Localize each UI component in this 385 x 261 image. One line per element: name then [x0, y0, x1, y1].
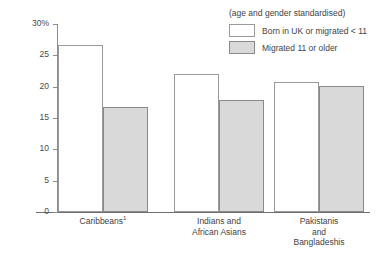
y-axis-tick-label: 15 — [40, 113, 49, 122]
legend-item-label: Migrated 11 or older — [262, 43, 337, 53]
legend-swatch-shaded-icon — [229, 41, 255, 54]
category-label-line: Bangladeshis — [259, 237, 379, 248]
bar — [219, 100, 264, 212]
bar — [103, 107, 148, 212]
legend-item-born-in-uk: Born in UK or migrated < 11 — [229, 24, 381, 37]
bar-chart: 051015202530% Caribbeans1Indians andAfri… — [0, 0, 385, 261]
x-axis-category-label: Caribbeans1 — [43, 216, 163, 227]
y-axis-tick-label: 10 — [40, 144, 49, 153]
category-label-line: Pakistanis — [259, 216, 379, 227]
bar — [274, 82, 319, 212]
category-label-line: and — [259, 227, 379, 238]
legend: (age and gender standardised) Born in UK… — [229, 8, 381, 58]
category-label-line: Caribbeans1 — [43, 216, 163, 227]
legend-item-label: Born in UK or migrated < 11 — [262, 26, 367, 36]
bar — [174, 74, 219, 212]
y-axis-tick-label: 30% — [32, 19, 49, 28]
y-axis-tick-label: 5 — [44, 176, 49, 185]
x-axis-line — [36, 212, 370, 213]
bar — [319, 86, 364, 212]
y-axis-tick-label: 20 — [40, 82, 49, 91]
y-axis-tick-label: 25 — [40, 50, 49, 59]
bar — [58, 45, 103, 212]
legend-swatch-light-icon — [229, 24, 255, 37]
y-axis-tick-label: 0 — [44, 207, 49, 216]
footnote-marker: 1 — [123, 215, 126, 221]
legend-item-migrated-11-or-older: Migrated 11 or older — [229, 41, 381, 54]
x-axis-category-label: PakistanisandBangladeshis — [259, 216, 379, 248]
legend-note: (age and gender standardised) — [229, 8, 381, 18]
y-axis-tick-mark — [53, 212, 58, 213]
